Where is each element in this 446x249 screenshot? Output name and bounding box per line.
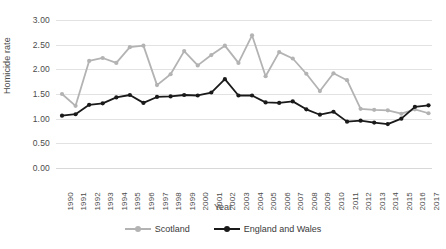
data-point	[359, 119, 363, 123]
series-line	[62, 79, 429, 124]
data-point	[291, 56, 295, 60]
y-tick-label: 1.50	[33, 89, 50, 99]
data-point	[318, 89, 322, 93]
data-point	[101, 101, 105, 105]
data-point	[168, 72, 172, 76]
data-point	[155, 95, 159, 99]
data-point	[168, 94, 172, 98]
data-point	[277, 50, 281, 54]
data-point	[223, 77, 227, 81]
data-point	[128, 45, 132, 49]
data-point	[264, 100, 268, 104]
data-point	[345, 120, 349, 124]
data-point	[413, 105, 417, 109]
y-tick-label: 2.50	[33, 40, 50, 50]
data-point	[73, 104, 77, 108]
series-scotland	[60, 33, 431, 116]
data-point	[196, 63, 200, 67]
data-point	[372, 121, 376, 125]
y-tick-label: 0.50	[33, 138, 50, 148]
legend-item-england-and-wales[interactable]: England and Wales	[214, 224, 322, 234]
legend-swatch-icon	[214, 225, 240, 234]
series-layer	[56, 20, 432, 168]
plot-area: 0.000.501.001.502.002.503.00 19901991199…	[56, 20, 432, 168]
data-point	[209, 90, 213, 94]
data-point	[291, 99, 295, 103]
y-tick-label: 1.00	[33, 114, 50, 124]
data-point	[386, 122, 390, 126]
data-point	[223, 44, 227, 48]
y-tick-label: 0.00	[33, 163, 50, 173]
data-point	[87, 59, 91, 63]
chart-legend: ScotlandEngland and Wales	[0, 224, 446, 234]
data-point	[236, 93, 240, 97]
data-point	[426, 111, 430, 115]
data-point	[250, 33, 254, 37]
data-point	[277, 101, 281, 105]
data-point	[236, 61, 240, 65]
data-point	[209, 53, 213, 57]
data-point	[196, 93, 200, 97]
homicide-rate-line-chart: Homicide rate 0.000.501.001.502.002.503.…	[0, 0, 446, 249]
data-point	[386, 108, 390, 112]
data-point	[182, 93, 186, 97]
data-point	[331, 110, 335, 114]
data-point	[155, 83, 159, 87]
data-point	[60, 92, 64, 96]
data-point	[141, 44, 145, 48]
data-point	[60, 114, 64, 118]
data-point	[182, 49, 186, 53]
data-point	[87, 103, 91, 107]
legend-swatch-icon	[125, 225, 151, 234]
data-point	[128, 93, 132, 97]
legend-label: Scotland	[155, 224, 190, 234]
y-axis-title: Homicide rate	[2, 37, 12, 94]
series-line	[62, 35, 429, 113]
data-point	[141, 101, 145, 105]
data-point	[304, 107, 308, 111]
data-point	[114, 61, 118, 65]
data-point	[73, 112, 77, 116]
y-tick-label: 3.00	[33, 15, 50, 25]
data-point	[359, 107, 363, 111]
data-point	[101, 56, 105, 60]
data-point	[399, 112, 403, 116]
data-point	[426, 103, 430, 107]
data-point	[264, 74, 268, 78]
data-point	[372, 108, 376, 112]
data-point	[318, 113, 322, 117]
data-point	[250, 93, 254, 97]
y-tick-label: 2.00	[33, 64, 50, 74]
data-point	[304, 72, 308, 76]
data-point	[114, 95, 118, 99]
x-axis-title: Year	[0, 202, 446, 212]
data-point	[399, 117, 403, 121]
gridline-0.00	[56, 168, 432, 169]
legend-label: England and Wales	[244, 224, 322, 234]
data-point	[331, 71, 335, 75]
series-england-and-wales	[60, 77, 431, 126]
data-point	[345, 78, 349, 82]
legend-item-scotland[interactable]: Scotland	[125, 224, 190, 234]
